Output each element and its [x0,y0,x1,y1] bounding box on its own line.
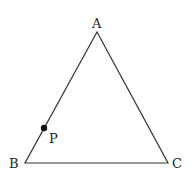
vertex-label-b: B [9,156,19,171]
triangle-abc [25,32,168,163]
vertex-label-a: A [91,16,102,31]
point-label-p: P [49,131,58,146]
point-p-marker [41,125,47,131]
vertex-label-c: C [172,156,182,171]
triangle-diagram: A B C P [0,0,192,181]
